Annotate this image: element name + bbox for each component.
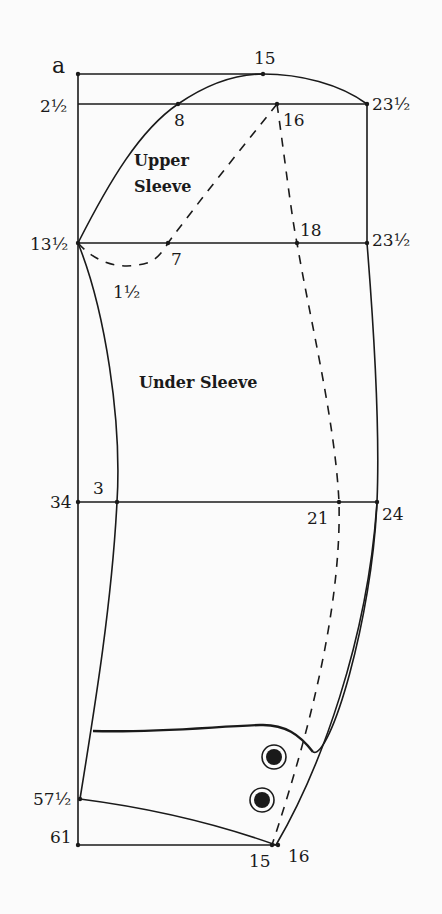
point-8 <box>176 102 180 106</box>
point-7 <box>166 241 170 245</box>
point-15-top <box>261 72 265 76</box>
label-34: 34 <box>50 492 72 512</box>
label-2-5: 2½ <box>40 96 67 116</box>
label-16-bottom: 16 <box>288 846 310 866</box>
point-a <box>76 72 80 76</box>
upper-sleeve-label-line2: Sleeve <box>134 177 191 196</box>
point-61 <box>76 843 80 847</box>
construction-lines <box>78 74 377 845</box>
label-13-5: 13½ <box>30 234 68 254</box>
label-23-5-top: 23½ <box>372 94 410 114</box>
point-57-5 <box>78 797 82 801</box>
point-16-bottom <box>276 843 280 847</box>
cuff-bottom-curve <box>80 799 276 845</box>
point-21 <box>337 500 341 504</box>
upper-sleeve-label-line1: Upper <box>134 151 190 170</box>
point-23-5-mid <box>365 241 369 245</box>
point-13-5 <box>76 241 80 245</box>
upper-sleeve-cap-curve <box>78 74 367 243</box>
point-18 <box>295 241 299 245</box>
label-15-bottom: 15 <box>249 851 271 871</box>
point-24 <box>375 500 379 504</box>
label-3: 3 <box>93 478 104 498</box>
point-15-bottom <box>270 843 274 847</box>
label-16-top: 16 <box>283 110 305 130</box>
pattern-outline <box>78 74 378 845</box>
label-a: a <box>52 53 65 78</box>
cuff-top-line <box>93 725 313 752</box>
sleeve-pattern-diagram: a 2½ 13½ 34 57½ 61 23½ 23½ 24 15 8 16 18… <box>0 0 442 914</box>
label-18: 18 <box>300 220 322 240</box>
point-16-top <box>275 102 279 106</box>
button-icon-upper <box>266 749 282 765</box>
cuff-buttons <box>250 745 286 812</box>
label-57-5: 57½ <box>33 789 71 809</box>
label-15-top: 15 <box>254 48 276 68</box>
label-1-5: 1½ <box>113 282 140 302</box>
label-8: 8 <box>174 110 185 130</box>
right-outer-curve <box>276 502 377 845</box>
point-3 <box>115 500 119 504</box>
point-23-5-top <box>365 102 369 106</box>
label-7: 7 <box>171 249 182 269</box>
label-24: 24 <box>382 504 404 524</box>
button-icon-lower <box>254 792 270 808</box>
point-34 <box>76 500 80 504</box>
under-sleeve-scye-dashed <box>78 243 168 266</box>
under-sleeve-left-curve <box>78 243 118 799</box>
label-21: 21 <box>307 508 329 528</box>
label-61: 61 <box>50 827 72 847</box>
under-sleeve-label: Under Sleeve <box>139 373 257 392</box>
label-23-5-mid: 23½ <box>372 230 410 250</box>
